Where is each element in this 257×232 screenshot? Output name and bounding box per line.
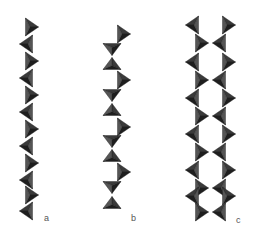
tetrahedron-icon [213, 71, 226, 89]
tetrahedron-icon [118, 118, 131, 136]
panel-label-b: b [131, 213, 136, 223]
tetrahedron-icon [118, 163, 131, 181]
tetrahedron-icon [20, 35, 33, 53]
tetrahedron-icon [103, 90, 121, 102]
tetrahedron-icon [103, 136, 121, 148]
tetrahedron-icon [186, 161, 199, 179]
panel-label-c: c [236, 215, 241, 225]
tetrahedron-icon [103, 182, 121, 194]
tetrahedron-icon [118, 71, 131, 89]
tetrahedron-icon [20, 69, 33, 87]
tetrahedron-icon [223, 161, 236, 179]
tetrahedron-icon [103, 104, 121, 116]
tetrahedron-icon [196, 143, 209, 161]
tetrahedron-icon [103, 58, 121, 70]
silicate-chain-figure [0, 0, 257, 232]
tetrahedron-icon [213, 34, 226, 52]
tetrahedron-icon [213, 203, 226, 221]
chain-b-single-period3 [103, 25, 131, 209]
tetrahedron-icon [20, 103, 33, 121]
tetrahedron-icon [223, 125, 236, 143]
tetrahedron-icon [186, 89, 199, 107]
tetrahedron-icon [26, 154, 39, 172]
tetrahedron-icon [26, 52, 39, 70]
tetrahedron-icon [223, 53, 236, 71]
tetrahedron-icon [196, 107, 209, 125]
tetrahedron-icon [26, 120, 39, 138]
tetrahedron-icon [186, 53, 199, 71]
tetrahedron-icon [186, 16, 199, 34]
tetrahedron-icon [26, 18, 39, 36]
tetrahedron-icon [20, 137, 33, 155]
tetrahedron-icon [213, 107, 226, 125]
panel-label-a: a [44, 213, 49, 223]
tetrahedron-icon [186, 187, 199, 205]
tetrahedron-icon [196, 71, 209, 89]
tetrahedron-icon [196, 203, 209, 221]
tetrahedron-icon [20, 202, 33, 220]
tetrahedron-icon [186, 125, 199, 143]
tetrahedron-icon [223, 16, 236, 34]
tetrahedron-icon [223, 187, 236, 205]
chain-a-single [20, 18, 39, 220]
tetrahedron-icon [223, 89, 236, 107]
tetrahedron-icon [26, 86, 39, 104]
tetrahedron-icon [103, 44, 121, 56]
tetrahedron-icon [103, 150, 121, 162]
tetrahedron-icon [103, 197, 121, 209]
tetrahedron-icon [213, 143, 226, 161]
chain-c-double-band [186, 16, 236, 221]
tetrahedron-icon [118, 25, 131, 43]
tetrahedron-icon [196, 34, 209, 52]
